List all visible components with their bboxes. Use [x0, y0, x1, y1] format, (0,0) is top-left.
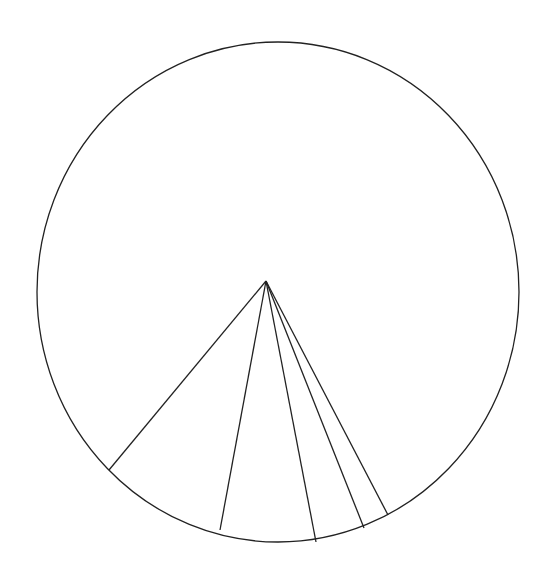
pie-chart	[0, 0, 553, 567]
pie-outline	[37, 42, 519, 542]
